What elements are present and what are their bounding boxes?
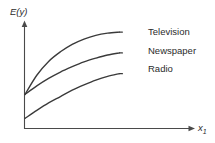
- x-axis: [25, 126, 196, 132]
- chart-plot-area: [0, 0, 215, 143]
- series-label-newspaper: Newspaper: [148, 46, 196, 56]
- chart-figure: E(y) x1 Television Newspaper Radio: [0, 0, 215, 143]
- y-axis-arrowhead-icon: [22, 21, 28, 28]
- x-axis-label: x1: [198, 123, 207, 135]
- series-label-radio: Radio: [148, 64, 173, 74]
- series-curve-newspaper: [25, 53, 119, 95]
- series-curve-radio: [25, 74, 119, 119]
- series-label-television: Television: [148, 27, 190, 37]
- y-axis-label: E(y): [10, 7, 27, 17]
- x-axis-arrowhead-icon: [189, 126, 196, 132]
- y-axis: [22, 21, 28, 130]
- x-axis-label-subscript: 1: [203, 128, 207, 135]
- series-curves-group: [25, 32, 122, 118]
